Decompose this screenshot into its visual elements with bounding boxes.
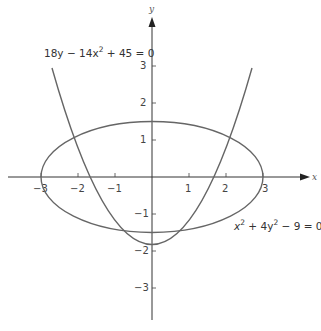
x-tick-label: −2 xyxy=(70,183,85,194)
graph: −3 −2 −1 1 2 3 3 2 1 −1 −2 −3 x y 18y − … xyxy=(0,0,321,331)
x-tick-label: 1 xyxy=(185,183,191,194)
ellipse-equation: x2 + 4y2 − 9 = 0 xyxy=(233,218,321,232)
y-tick-label: −2 xyxy=(134,245,149,256)
x-tick-label: 3 xyxy=(262,183,268,194)
x-axis-arrow-icon xyxy=(300,174,310,181)
parabola-equation: 18y − 14x2 + 45 = 0 xyxy=(44,45,154,59)
x-axis-label: x xyxy=(312,172,317,182)
x-tick-label: −1 xyxy=(107,183,122,194)
y-axis-arrow-icon xyxy=(149,17,156,27)
y-tick-label: −3 xyxy=(134,282,149,293)
y-tick-label: 3 xyxy=(140,60,146,71)
y-tick-label: 2 xyxy=(140,97,146,108)
y-tick-label: −1 xyxy=(134,208,149,219)
y-tick-label: 1 xyxy=(140,134,146,145)
x-tick-label: 2 xyxy=(222,183,228,194)
y-axis-label: y xyxy=(148,4,155,14)
